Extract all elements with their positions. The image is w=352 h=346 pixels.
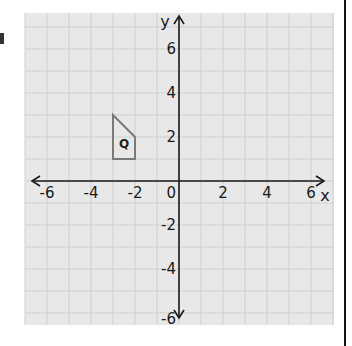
shape-label: Q — [119, 137, 129, 151]
origin-label: 0 — [166, 184, 176, 202]
y-tick-label: -4 — [161, 260, 176, 278]
x-tick-label: 4 — [262, 184, 272, 202]
y-tick-label: -2 — [161, 216, 176, 234]
x-tick-label: -6 — [40, 184, 55, 202]
y-tick-label: 4 — [166, 84, 176, 102]
page-border-line — [344, 0, 346, 346]
x-tick-label: -4 — [84, 184, 99, 202]
y-tick-label: 6 — [166, 40, 176, 58]
y-axis-label: y — [160, 12, 169, 31]
x-axis-label: x — [320, 186, 329, 205]
x-tick-label: 6 — [306, 184, 316, 202]
y-tick-label: 2 — [166, 128, 176, 146]
coordinate-grid: -6-4-2246642-2-4-60xy Q — [0, 0, 352, 346]
x-tick-label: 2 — [218, 184, 228, 202]
y-tick-label: -6 — [161, 310, 176, 328]
x-tick-label: -2 — [128, 184, 143, 202]
